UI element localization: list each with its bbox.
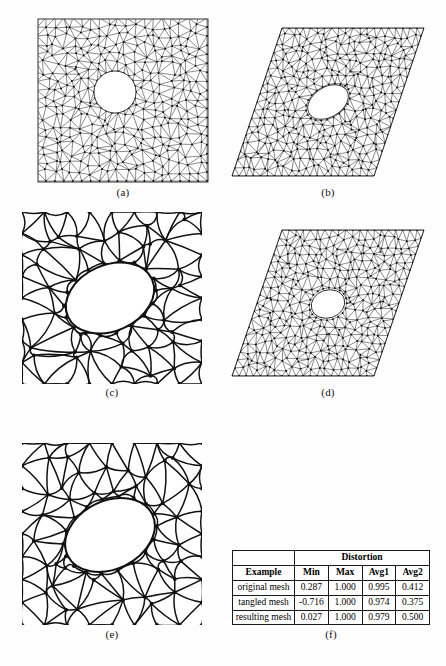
header-min: Min [295,565,329,580]
cell-resulting-avg2: 0.500 [396,610,430,625]
panel-d-resulting-sheared-mesh [228,212,428,384]
caption-b: (b) [228,186,428,198]
cell-resulting-avg1: 0.979 [362,610,396,625]
caption-e: (e) [22,628,202,640]
panel-a-original-mesh-square [37,18,209,183]
table-row: tangled mesh -0.716 1.000 0.974 0.375 [233,595,430,610]
table-header-group-row: Distortion [233,551,430,566]
cell-original-avg2: 0.412 [396,580,430,595]
caption-c: (c) [22,386,202,398]
panel-b-sheared-mesh [228,18,428,183]
table-row: resulting mesh 0.027 1.000 0.979 0.500 [233,610,430,625]
caption-f: (f) [232,628,430,640]
row-label-original-mesh: original mesh [233,580,295,595]
header-example: Example [233,565,295,580]
distortion-table: Distortion Example Min Max Avg1 Avg2 ori… [232,550,430,625]
header-avg1: Avg1 [362,565,396,580]
caption-a: (a) [37,186,209,198]
cell-resulting-max: 1.000 [328,610,362,625]
cell-original-max: 1.000 [328,580,362,595]
header-avg2: Avg2 [396,565,430,580]
cell-tangled-avg1: 0.974 [362,595,396,610]
table-row: original mesh 0.287 1.000 0.995 0.412 [233,580,430,595]
cell-original-min: 0.287 [295,580,329,595]
cell-original-avg1: 0.995 [362,580,396,595]
caption-d: (d) [228,386,428,398]
row-label-resulting-mesh: resulting mesh [233,610,295,625]
header-distortion-group: Distortion [295,551,430,566]
panel-f-distortion-table: Distortion Example Min Max Avg1 Avg2 ori… [232,550,430,616]
cell-tangled-min: -0.716 [295,595,329,610]
header-corner-blank [233,551,295,566]
cell-tangled-avg2: 0.375 [396,595,430,610]
row-label-tangled-mesh: tangled mesh [233,595,295,610]
figure-page: (a) (b) (c) [0,0,446,666]
cell-tangled-max: 1.000 [328,595,362,610]
header-max: Max [328,565,362,580]
panel-c-tangled-mesh [22,212,202,384]
table-header-row: Example Min Max Avg1 Avg2 [233,565,430,580]
cell-resulting-min: 0.027 [295,610,329,625]
panel-e-resulting-mesh [22,443,202,625]
